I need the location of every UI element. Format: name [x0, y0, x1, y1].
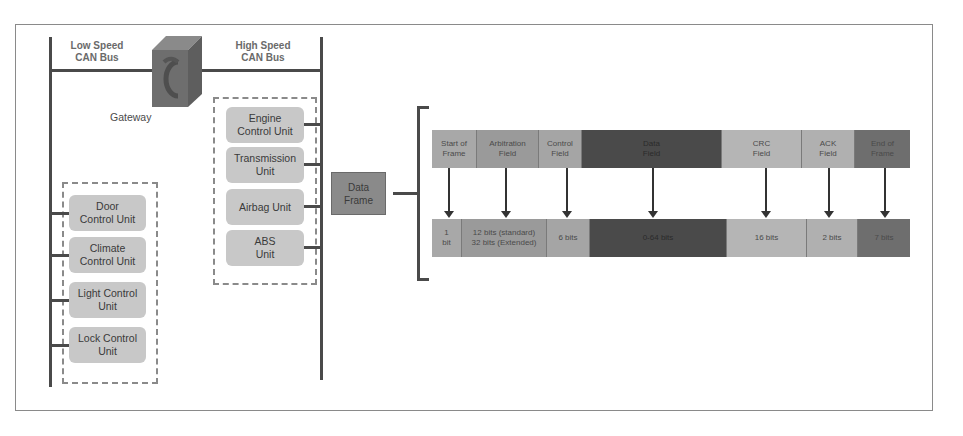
size-start-of-frame: 1 bit — [432, 219, 462, 257]
bracket-bottom — [417, 278, 429, 281]
field-data: Data Field — [582, 130, 722, 168]
lock-control-unit: Lock Control Unit — [69, 327, 146, 363]
arrow-down-icon — [765, 168, 767, 212]
arrow-down-icon — [448, 168, 450, 212]
field-arbitration: Arbitration Field — [477, 130, 539, 168]
arrow-down-icon — [828, 168, 830, 212]
connector — [304, 163, 321, 166]
bracket-stub — [393, 192, 419, 195]
climate-control-unit: Climate Control Unit — [69, 237, 146, 273]
size-arbitration: 12 bits (standard) 32 bits (Extended) — [462, 219, 547, 257]
abs-unit: ABS Unit — [226, 230, 304, 266]
arrow-down-icon — [505, 168, 507, 212]
connector — [50, 299, 69, 302]
gateway-cube-icon — [150, 34, 204, 109]
connector — [304, 205, 321, 208]
size-control: 6 bits — [547, 219, 590, 257]
transmission-unit: Transmission Unit — [226, 147, 304, 183]
bracket-top — [417, 106, 429, 109]
field-end-of-frame: End of Frame — [855, 130, 910, 168]
bracket-line — [417, 106, 420, 280]
size-ack: 2 bits — [807, 219, 858, 257]
door-control-unit: Door Control Unit — [69, 195, 146, 231]
size-crc: 16 bits — [727, 219, 807, 257]
size-data: 0-64 bits — [590, 219, 727, 257]
gateway-label: Gateway — [110, 111, 151, 123]
connector — [50, 212, 69, 215]
field-ack: ACK Field — [802, 130, 855, 168]
size-end-of-frame: 7 bits — [858, 219, 910, 257]
connector — [304, 123, 321, 126]
airbag-unit: Airbag Unit — [226, 189, 304, 225]
arrow-down-icon — [884, 168, 886, 212]
data-frame-box: Data Frame — [331, 172, 386, 215]
connector — [304, 246, 321, 249]
field-control: Control Field — [539, 130, 582, 168]
light-control-unit: Light Control Unit — [69, 282, 146, 318]
connector — [50, 344, 69, 347]
high-speed-bus-label: High Speed CAN Bus — [228, 40, 298, 64]
high-speed-bus-line — [320, 37, 323, 380]
arrow-down-icon — [566, 168, 568, 212]
field-start-of-frame: Start of Frame — [432, 130, 477, 168]
arrow-down-icon — [652, 168, 654, 212]
low-speed-bus-label: Low Speed CAN Bus — [62, 40, 132, 64]
connector — [50, 254, 69, 257]
engine-control-unit: Engine Control Unit — [226, 107, 304, 143]
field-crc: CRC Field — [722, 130, 802, 168]
